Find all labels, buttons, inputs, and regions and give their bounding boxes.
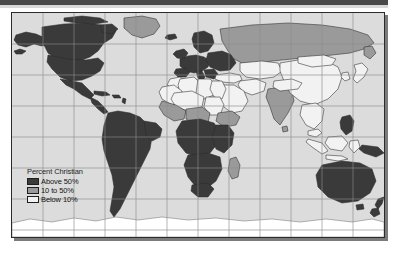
legend-swatch-below-10	[27, 196, 39, 203]
region-sri-lanka	[282, 126, 288, 132]
legend-swatch-10-to-50	[27, 187, 39, 194]
scan-artifact-bottom-margin	[0, 244, 399, 256]
figure-page: Percent Christian Above 50% 10 to 50% Be…	[0, 0, 399, 256]
map-legend: Percent Christian Above 50% 10 to 50% Be…	[25, 165, 101, 206]
legend-title: Percent Christian	[27, 167, 99, 176]
world-map-frame: Percent Christian Above 50% 10 to 50% Be…	[11, 12, 385, 238]
region-tasmania	[356, 204, 364, 210]
scan-artifact-top-band	[0, 5, 399, 8]
scan-artifact-right-margin	[388, 0, 399, 256]
legend-swatch-above-50	[27, 178, 39, 185]
legend-label-above-50: Above 50%	[41, 178, 78, 186]
legend-item-above-50: Above 50%	[27, 177, 99, 186]
legend-item-below-10: Below 10%	[27, 195, 99, 204]
legend-label-10-to-50: 10 to 50%	[41, 187, 74, 195]
legend-label-below-10: Below 10%	[41, 196, 78, 204]
legend-item-10-to-50: 10 to 50%	[27, 186, 99, 195]
